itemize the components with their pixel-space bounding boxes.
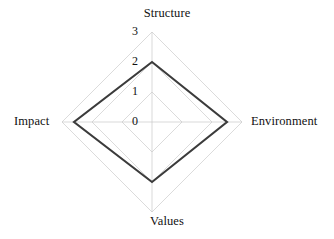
axis-label-impact: Impact [14,114,49,129]
tick-label-3: 3 [116,24,138,39]
tick-label-1: 1 [116,84,138,99]
axis-label-structure: Structure [0,6,334,21]
tick-label-0: 0 [116,114,138,129]
radar-chart: Structure Environment Values Impact 3 2 … [0,0,334,239]
axis-lines [62,32,242,212]
axis-label-environment: Environment [251,114,317,129]
tick-label-2: 2 [116,54,138,69]
axis-label-values: Values [0,214,334,229]
